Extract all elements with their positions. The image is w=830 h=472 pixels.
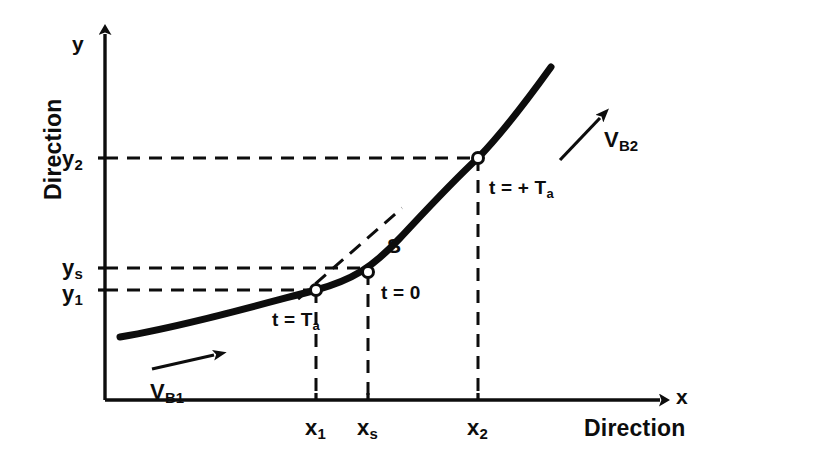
- x-tick-base-x2: x: [467, 415, 479, 440]
- x-tick-sub-x2: 2: [479, 425, 487, 442]
- x-axis-title-label: Direction: [584, 417, 685, 440]
- annotation-t-zero: t = 0: [381, 283, 421, 302]
- velocity-vb2-symbol: V: [604, 127, 619, 152]
- y-tick-base-ys: y: [62, 255, 74, 280]
- velocity-vb1-symbol: V: [150, 379, 165, 404]
- velocity-arrow-vb2: [560, 118, 600, 160]
- velocity-vb2-sub: B2: [619, 137, 638, 154]
- velocity-label-vb1: VB1: [150, 381, 184, 406]
- y-tick-base-y1: y: [62, 281, 74, 306]
- marker-point-xs: [363, 267, 374, 278]
- y-tick-sub-y2: 2: [74, 156, 82, 173]
- x-tick-base-x1: x: [305, 415, 317, 440]
- marker-point-x2: [473, 153, 484, 164]
- trajectory-curve: [120, 67, 551, 337]
- y-tick-label-y2: y2: [62, 148, 83, 173]
- x-tick-sub-x1: 1: [317, 425, 325, 442]
- horizontal-projection-lines: [105, 158, 478, 290]
- y-axis-name-label: y: [72, 33, 84, 54]
- x-axis-name-label: x: [676, 386, 688, 407]
- tangent-label-s: S: [387, 235, 401, 256]
- x-tick-sub-xs: s: [369, 425, 377, 442]
- annotation-t-start-symbol: T: [301, 309, 313, 330]
- velocity-vb1-sub: B1: [165, 389, 184, 406]
- annotation-t-end: t = + Ta: [489, 178, 554, 201]
- annotation-t-end-symbol: T: [535, 177, 547, 198]
- y-tick-sub-y1: 1: [74, 291, 82, 308]
- y-tick-sub-ys: s: [74, 265, 82, 282]
- annotation-t-start-sub: a: [313, 318, 320, 333]
- y-axis-group: [98, 34, 105, 400]
- velocity-arrow-vb1: [152, 355, 214, 369]
- annotation-t-end-text: t = +: [489, 177, 535, 198]
- diagram-svg: [0, 0, 830, 472]
- x-axis-group: [105, 393, 660, 400]
- x-tick-label-xs: xs: [357, 417, 378, 442]
- annotation-t-start: t = Ta: [272, 310, 320, 333]
- y-tick-label-y1: y1: [62, 283, 83, 308]
- y-tick-label-ys: ys: [62, 257, 83, 282]
- annotation-t-end-sub: a: [546, 186, 553, 201]
- x-tick-label-x2: x2: [467, 417, 488, 442]
- figure-canvas: y Direction y2 ys y1 x Direction x1 xs x…: [0, 0, 830, 472]
- x-tick-label-x1: x1: [305, 417, 326, 442]
- y-tick-base-y2: y: [62, 146, 74, 171]
- x-tick-base-xs: x: [357, 415, 369, 440]
- annotation-t-start-text: t =: [272, 309, 301, 330]
- marker-point-x1: [311, 285, 322, 296]
- velocity-label-vb2: VB2: [604, 129, 638, 154]
